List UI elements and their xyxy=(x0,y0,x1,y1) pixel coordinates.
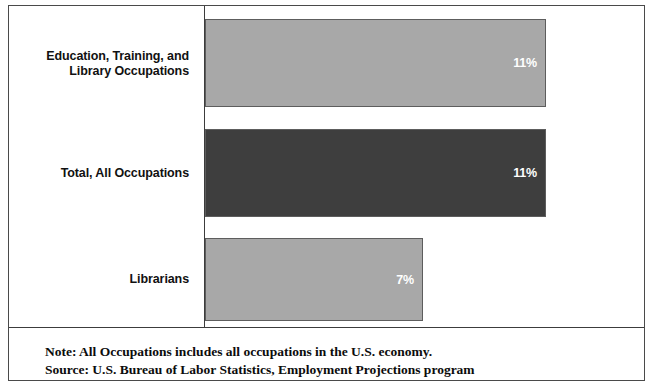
category-label-line: Library Occupations xyxy=(69,64,189,78)
bar-row: Education, Training, and Library Occupat… xyxy=(9,19,644,107)
bar-total-all-occupations[interactable]: 11% xyxy=(205,129,546,217)
category-label-line: Education, Training, and xyxy=(46,49,189,63)
bar-librarians[interactable]: 7% xyxy=(205,238,423,321)
source-text: Source: U.S. Bureau of Labor Statistics,… xyxy=(45,361,625,379)
category-label-total-all-occupations: Total, All Occupations xyxy=(9,166,189,181)
bar-value-label: 11% xyxy=(513,56,537,70)
footnotes: Note: All Occupations includes all occup… xyxy=(45,343,625,378)
bar-education-training-library[interactable]: 11% xyxy=(205,19,546,107)
category-label-education-training-library: Education, Training, and Library Occupat… xyxy=(9,49,189,79)
bar-value-label: 7% xyxy=(396,273,414,287)
bar-row: Librarians 7% xyxy=(9,238,644,321)
category-label-line: Total, All Occupations xyxy=(61,166,189,180)
chart-plot-area: Education, Training, and Library Occupat… xyxy=(9,6,644,327)
category-label-line: Librarians xyxy=(130,272,189,286)
footer-divider xyxy=(9,327,644,328)
chart-figure: Education, Training, and Library Occupat… xyxy=(8,5,645,381)
note-text: Note: All Occupations includes all occup… xyxy=(45,343,625,361)
bar-value-label: 11% xyxy=(513,166,537,180)
category-label-librarians: Librarians xyxy=(9,272,189,287)
bar-row: Total, All Occupations 11% xyxy=(9,129,644,217)
